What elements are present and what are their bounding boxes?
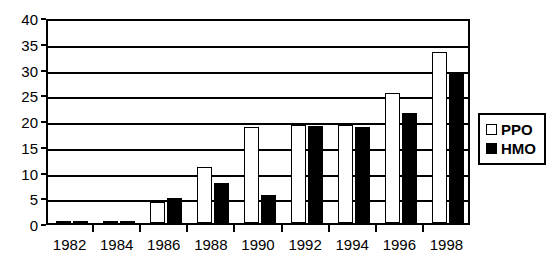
bar-ppo-1996 (385, 93, 400, 223)
y-axis-tick-label: 5 (30, 192, 38, 207)
x-axis-tick-mark (328, 225, 330, 232)
x-axis-tick-mark (375, 225, 377, 232)
x-axis-tick-label: 1998 (430, 236, 463, 254)
y-axis: 0510152025303540 (0, 0, 46, 270)
x-axis-tick-label: 1990 (241, 236, 274, 254)
x-axis-tick-label: 1994 (336, 236, 369, 254)
hollow-square-icon (486, 124, 497, 135)
bar-ppo-1984 (103, 221, 118, 223)
bar-hmo-1984 (120, 221, 135, 223)
bar-hmo-1988 (214, 183, 229, 223)
bar-hmo-1994 (355, 127, 370, 223)
x-axis-tick-label: 1988 (194, 236, 227, 254)
x-axis-tick-mark (139, 225, 141, 232)
x-axis-tick-label: 1984 (100, 236, 133, 254)
bar-ppo-1982 (56, 221, 71, 223)
plot-area (46, 19, 470, 225)
bar-hmo-1986 (167, 198, 182, 223)
x-axis-tick-label: 1992 (288, 236, 321, 254)
x-axis-ticks (46, 225, 470, 233)
y-axis-tick-label: 0 (30, 218, 38, 233)
bar-chart: 0510152025303540 19821984198619881990199… (0, 0, 553, 270)
x-axis-tick-mark (281, 225, 283, 232)
chart-legend: PPOHMO (478, 113, 546, 165)
x-axis-tick-mark (186, 225, 188, 232)
bar-ppo-1994 (338, 125, 353, 223)
bar-group (48, 21, 95, 223)
legend-entry-hmo: HMO (486, 139, 536, 158)
y-axis-tick-label: 30 (21, 63, 38, 78)
x-axis: 198219841986198819901992199419961998 (46, 236, 470, 258)
legend-entry-ppo: PPO (486, 120, 536, 139)
bar-ppo-1992 (291, 125, 306, 223)
bar-group (331, 21, 378, 223)
y-axis-tick-label: 15 (21, 140, 38, 155)
bars-layer (48, 21, 468, 223)
x-axis-tick-mark (233, 225, 235, 232)
bar-hmo-1996 (402, 113, 417, 223)
bar-group (284, 21, 331, 223)
bar-group (425, 21, 472, 223)
x-axis-tick-mark (92, 225, 94, 232)
y-axis-tick-label: 35 (21, 37, 38, 52)
bar-hmo-1998 (449, 73, 464, 223)
filled-square-icon (486, 143, 497, 154)
y-axis-tick-label: 10 (21, 166, 38, 181)
y-axis-tick-label: 40 (21, 12, 38, 27)
bar-ppo-1986 (150, 202, 165, 223)
bar-group (189, 21, 236, 223)
bar-group (142, 21, 189, 223)
bar-group (95, 21, 142, 223)
y-axis-tick-label: 25 (21, 89, 38, 104)
x-axis-tick-mark (422, 225, 424, 232)
x-axis-tick-label: 1982 (53, 236, 86, 254)
x-axis-tick-label: 1996 (383, 236, 416, 254)
bar-ppo-1998 (432, 52, 447, 223)
legend-label: PPO (501, 122, 533, 137)
bar-hmo-1990 (261, 195, 276, 223)
legend-label: HMO (501, 141, 536, 156)
bar-group (378, 21, 425, 223)
y-axis-tick-label: 20 (21, 115, 38, 130)
bar-ppo-1988 (197, 167, 212, 223)
bar-hmo-1982 (73, 221, 88, 223)
bar-ppo-1990 (244, 127, 259, 223)
x-axis-tick-label: 1986 (147, 236, 180, 254)
bar-group (236, 21, 283, 223)
bar-hmo-1992 (308, 126, 323, 223)
